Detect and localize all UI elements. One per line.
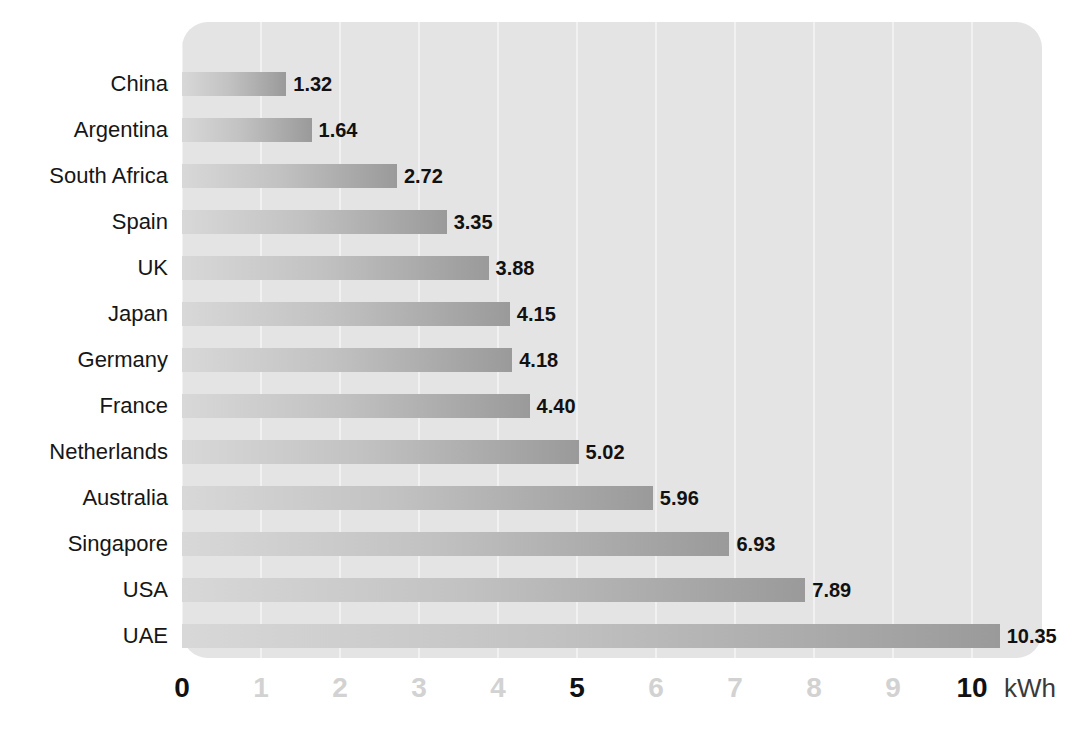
x-tick-9: 9: [885, 664, 901, 712]
bar-value-label: 10.35: [1007, 613, 1057, 659]
bar-value-label: 5.02: [586, 429, 625, 475]
bar-value-label: 3.35: [454, 199, 493, 245]
bar[interactable]: [182, 164, 397, 188]
bar-rows: China1.32Argentina1.64South Africa2.72Sp…: [0, 0, 1072, 743]
category-label: Australia: [82, 475, 168, 521]
category-label: USA: [123, 567, 168, 613]
bar-row[interactable]: Australia5.96: [0, 475, 1072, 521]
bar[interactable]: [182, 624, 1000, 648]
bar[interactable]: [182, 210, 447, 234]
bar[interactable]: [182, 348, 512, 372]
bar-value-label: 1.64: [319, 107, 358, 153]
bar-row[interactable]: Netherlands5.02: [0, 429, 1072, 475]
category-label: UK: [137, 245, 168, 291]
bar[interactable]: [182, 394, 530, 418]
x-axis: 012345678910 kWh: [0, 664, 1072, 712]
bar-row[interactable]: Argentina1.64: [0, 107, 1072, 153]
bar[interactable]: [182, 578, 805, 602]
x-tick-10: 10: [956, 664, 987, 712]
bar-row[interactable]: Germany4.18: [0, 337, 1072, 383]
bar[interactable]: [182, 486, 653, 510]
bar-row[interactable]: Spain3.35: [0, 199, 1072, 245]
bar[interactable]: [182, 302, 510, 326]
category-label: Germany: [78, 337, 168, 383]
x-tick-0: 0: [174, 664, 190, 712]
bar[interactable]: [182, 440, 579, 464]
x-axis-unit-label: kWh: [1004, 664, 1056, 712]
category-label: South Africa: [49, 153, 168, 199]
bar[interactable]: [182, 256, 489, 280]
bar-row[interactable]: UAE10.35: [0, 613, 1072, 659]
bar-row[interactable]: China1.32: [0, 61, 1072, 107]
bar-row[interactable]: USA7.89: [0, 567, 1072, 613]
bar[interactable]: [182, 118, 312, 142]
x-tick-8: 8: [806, 664, 822, 712]
bar-value-label: 6.93: [736, 521, 775, 567]
bar-value-label: 4.40: [537, 383, 576, 429]
category-label: UAE: [123, 613, 168, 659]
bar-row[interactable]: Singapore6.93: [0, 521, 1072, 567]
bar-row[interactable]: Japan4.15: [0, 291, 1072, 337]
category-label: Spain: [112, 199, 168, 245]
bar-row[interactable]: France4.40: [0, 383, 1072, 429]
x-tick-2: 2: [332, 664, 348, 712]
bar-value-label: 4.15: [517, 291, 556, 337]
category-label: Netherlands: [49, 429, 168, 475]
x-tick-6: 6: [648, 664, 664, 712]
bar-value-label: 1.32: [293, 61, 332, 107]
category-label: Japan: [108, 291, 168, 337]
bar-row[interactable]: South Africa2.72: [0, 153, 1072, 199]
bar-value-label: 3.88: [496, 245, 535, 291]
x-tick-4: 4: [490, 664, 506, 712]
bar-value-label: 7.89: [812, 567, 851, 613]
x-tick-1: 1: [253, 664, 269, 712]
bar-chart: China1.32Argentina1.64South Africa2.72Sp…: [0, 0, 1072, 743]
category-label: France: [100, 383, 168, 429]
x-tick-3: 3: [411, 664, 427, 712]
category-label: Singapore: [68, 521, 168, 567]
category-label: China: [111, 61, 168, 107]
x-tick-7: 7: [727, 664, 743, 712]
bar[interactable]: [182, 532, 729, 556]
category-label: Argentina: [74, 107, 168, 153]
bar-value-label: 5.96: [660, 475, 699, 521]
x-tick-5: 5: [569, 664, 585, 712]
bar-value-label: 2.72: [404, 153, 443, 199]
bar[interactable]: [182, 72, 286, 96]
bar-row[interactable]: UK3.88: [0, 245, 1072, 291]
bar-value-label: 4.18: [519, 337, 558, 383]
